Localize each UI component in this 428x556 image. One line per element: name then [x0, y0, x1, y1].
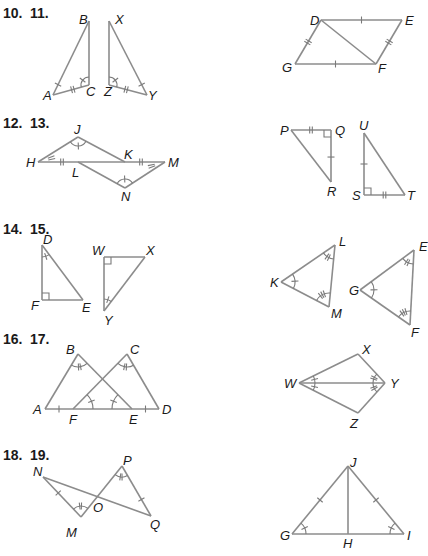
problem-19: 19.JGHI [30, 447, 411, 551]
vertex-label: J [349, 455, 357, 470]
right-angle-marker [104, 257, 111, 264]
vertex-label: T [407, 188, 416, 203]
vertex-label: Y [390, 376, 400, 391]
vertex-label: M [168, 155, 179, 170]
problem-number: 13. [30, 115, 49, 131]
vertex-label: Z [349, 416, 359, 431]
angle-tick [79, 503, 80, 510]
vertex-label: C [130, 342, 140, 357]
vertex-label: P [280, 123, 289, 138]
vertex-label: Y [148, 88, 158, 103]
vertex-label: H [26, 155, 36, 170]
problem-15: 15.LKMEGF [30, 221, 428, 340]
vertex-label: F [378, 61, 387, 76]
segment [73, 354, 127, 409]
vertex-label: F [69, 412, 78, 427]
problem-number: 19. [30, 447, 49, 463]
vertex-label: J [73, 122, 81, 137]
angle-tick [149, 166, 156, 169]
vertex-label: N [33, 464, 43, 479]
vertex-label: E [405, 13, 414, 28]
exercise-sheet: 10.BCAXZY11.DEFG12.JHKLMN13.PQRUST14.DFE… [0, 0, 428, 556]
problem-16: 16.BCAFED [3, 331, 171, 427]
vertex-label: O [93, 500, 103, 515]
segment [38, 137, 78, 162]
segment [109, 21, 147, 95]
angle-tick [311, 379, 318, 381]
vertex-label: P [123, 453, 132, 468]
right-angle-marker [324, 130, 331, 137]
vertex-label: G [280, 528, 290, 543]
vertex-label: E [82, 300, 91, 315]
vertex-label: A [42, 88, 52, 103]
segment [281, 245, 335, 282]
problem-18: 18.NPOMQ [3, 447, 160, 540]
problem-number: 12. [3, 115, 22, 131]
angle-arc [73, 506, 87, 509]
angle-tick [48, 156, 55, 158]
vertex-label: E [419, 239, 428, 254]
vertex-label: W [92, 243, 106, 258]
vertex-label: M [331, 306, 342, 321]
segment [122, 466, 151, 516]
problem-number: 17. [30, 331, 49, 347]
vertex-label: N [121, 189, 131, 204]
segment [360, 250, 414, 290]
segment [321, 20, 376, 64]
vertex-label: S [352, 188, 361, 203]
vertex-label: B [79, 12, 88, 27]
vertex-label: X [114, 12, 125, 27]
problem-number: 14. [3, 221, 22, 237]
problem-17: 17.XWYZ [30, 331, 400, 431]
vertex-label: G [282, 60, 292, 75]
vertex-label: K [270, 275, 280, 290]
angle-arc [71, 363, 87, 367]
problem-13: 13.PQRUST [30, 115, 416, 203]
vertex-label: A [32, 402, 42, 417]
vertex-label: Z [103, 84, 113, 99]
segment [43, 477, 81, 517]
segment [78, 162, 125, 188]
vertex-label: D [310, 13, 319, 28]
segment [299, 383, 358, 413]
segment [78, 137, 125, 162]
problem-number: 18. [3, 447, 22, 463]
angle-arc [118, 363, 134, 367]
problem-10: 10.BCAXZY [3, 5, 158, 103]
vertex-label: K [124, 147, 134, 162]
vertex-label: C [86, 84, 96, 99]
angle-tick [48, 159, 55, 160]
problem-number: 15. [30, 221, 49, 237]
segment [45, 354, 78, 409]
segment [364, 133, 405, 195]
vertex-label: Y [104, 313, 114, 328]
right-angle-marker [42, 293, 49, 300]
vertex-label: U [359, 118, 369, 133]
vertex-label: F [31, 298, 40, 313]
vertex-label: L [339, 234, 346, 249]
vertex-label: G [349, 283, 359, 298]
problem-number: 16. [3, 331, 22, 347]
angle-tick [148, 164, 155, 165]
vertex-label: W [284, 376, 298, 391]
problem-number: 11. [30, 5, 49, 21]
vertex-label: X [145, 243, 156, 258]
segment [376, 20, 402, 64]
segment [78, 354, 132, 409]
angle-tick [124, 363, 125, 370]
segment [42, 245, 83, 300]
vertex-label: F [411, 325, 420, 340]
angle-tick [120, 473, 121, 480]
problem-number: 10. [3, 5, 22, 21]
vertex-label: L [72, 165, 79, 180]
vertex-label: D [162, 402, 171, 417]
vertex-label: M [66, 525, 77, 540]
segment [104, 257, 145, 311]
segment [410, 250, 414, 325]
vertex-label: H [343, 536, 353, 551]
segment [127, 354, 159, 409]
vertex-label: I [407, 528, 411, 543]
right-angle-marker [364, 188, 371, 195]
segment [360, 290, 410, 325]
vertex-label: R [327, 184, 336, 199]
